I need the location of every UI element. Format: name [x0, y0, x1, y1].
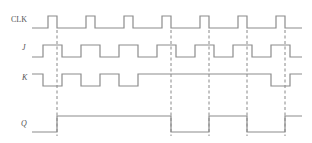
signal-label-k: K — [21, 73, 28, 82]
signal-label-clk: CLK — [11, 15, 27, 24]
waveform-q — [32, 116, 302, 132]
signal-waveforms — [32, 16, 302, 132]
signal-label-j: J — [22, 43, 26, 52]
signal-label-q: Q — [21, 119, 27, 128]
signal-labels: CLKJKQ — [11, 15, 28, 128]
waveform-j — [32, 45, 302, 57]
waveform-k — [32, 74, 302, 86]
waveform-clk — [32, 16, 302, 28]
jk-flipflop-timing-diagram: CLKJKQ — [0, 0, 312, 143]
